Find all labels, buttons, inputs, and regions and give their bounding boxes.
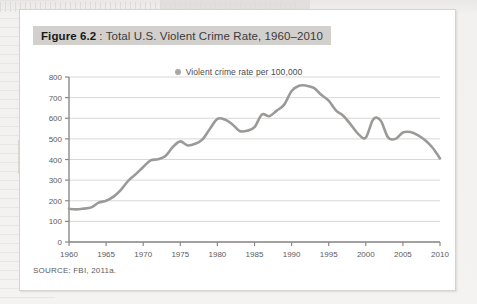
y-tick-label-100: 100 [49, 217, 63, 226]
y-tick-label-700: 700 [49, 94, 63, 103]
x-tick-label-1960: 1960 [60, 250, 78, 259]
x-tick-label-1970: 1970 [134, 250, 152, 259]
chart-y-axis: 0100200300400500600700800 [49, 73, 69, 247]
x-tick-label-1985: 1985 [246, 250, 264, 259]
figure-card: Figure 6.2: Total U.S. Violent Crime Rat… [19, 9, 456, 291]
x-tick-label-2010: 2010 [431, 250, 449, 259]
y-tick-label-400: 400 [49, 156, 63, 165]
x-tick-label-2005: 2005 [394, 250, 412, 259]
x-tick-label-2000: 2000 [357, 250, 375, 259]
figure-source: SOURCE: FBI, 2011a. [33, 266, 116, 275]
line-chart-svg: 0100200300400500600700800 19601965197019… [20, 10, 457, 292]
x-tick-label-1995: 1995 [320, 250, 338, 259]
x-tick-label-1975: 1975 [171, 250, 189, 259]
x-tick-label-1980: 1980 [209, 250, 227, 259]
chart-x-axis: 1960196519701975198019851990199520002005… [60, 242, 449, 259]
x-tick-label-1990: 1990 [283, 250, 301, 259]
figure-page: Figure 6.2: Total U.S. Violent Crime Rat… [0, 0, 477, 304]
chart-series-layer [69, 85, 440, 209]
y-tick-label-500: 500 [49, 135, 63, 144]
chart-plot-area: 0100200300400500600700800 19601965197019… [20, 10, 457, 292]
x-tick-label-1965: 1965 [97, 250, 115, 259]
y-tick-label-200: 200 [49, 197, 63, 206]
y-tick-label-0: 0 [58, 238, 63, 247]
y-tick-label-800: 800 [49, 73, 63, 82]
y-tick-label-300: 300 [49, 176, 63, 185]
chart-gridlines [69, 77, 440, 242]
series-line-0 [69, 85, 440, 209]
y-tick-label-600: 600 [49, 114, 63, 123]
